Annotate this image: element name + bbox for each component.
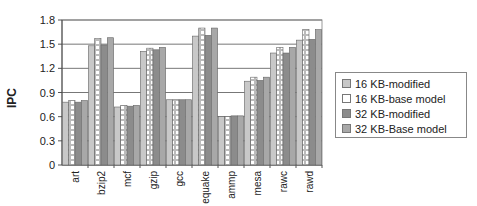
bar <box>277 47 283 165</box>
bar <box>140 51 146 165</box>
bar <box>237 116 243 165</box>
legend-item: 32 KB-modified <box>342 106 466 121</box>
bar <box>75 102 81 165</box>
x-tick-label: art <box>70 171 81 183</box>
bar <box>257 80 263 165</box>
x-tick-label: ammp <box>226 171 237 199</box>
x-tick-label: rawc <box>278 171 289 192</box>
chart-container: 00.30.60.91.21.51.8IPCartbzip2mcfgzipgcc… <box>0 0 477 206</box>
bar <box>133 105 139 165</box>
legend-item: 32 KB-Base model <box>342 121 466 136</box>
x-tick-label: bzip2 <box>96 171 107 195</box>
bar <box>62 102 68 165</box>
bar <box>101 45 107 165</box>
bar <box>296 40 302 165</box>
bar <box>315 30 321 165</box>
y-axis-label: IPC <box>5 88 19 108</box>
legend-item: 16 KB-modified <box>342 76 466 91</box>
bar <box>225 117 231 165</box>
bar <box>179 100 185 165</box>
y-tick-label: 0.3 <box>40 135 55 147</box>
y-tick-label: 1.5 <box>40 38 55 50</box>
y-tick-label: 0.6 <box>40 111 55 123</box>
bar <box>231 116 237 165</box>
bar <box>88 46 94 165</box>
bar <box>309 39 315 165</box>
bar <box>107 38 113 165</box>
bar <box>263 77 269 165</box>
bar <box>244 81 250 165</box>
bar <box>283 53 289 165</box>
y-tick-label: 0 <box>49 159 55 171</box>
y-tick-label: 1.2 <box>40 62 55 74</box>
legend-swatch-icon <box>342 124 351 133</box>
x-tick-label: mesa <box>252 171 263 196</box>
bar <box>270 53 276 165</box>
y-tick-label: 1.8 <box>40 14 55 26</box>
legend: 16 KB-modified 16 KB-base model 32 KB-mo… <box>335 72 467 138</box>
bar <box>205 35 211 165</box>
x-tick-label: gzip <box>148 171 159 190</box>
bar <box>166 100 172 165</box>
bar <box>289 47 295 165</box>
legend-item: 16 KB-base model <box>342 91 466 106</box>
bar <box>173 100 179 165</box>
bar <box>114 107 120 165</box>
bar <box>153 50 159 165</box>
bar <box>211 28 217 165</box>
bar <box>303 30 309 165</box>
y-tick-label: 0.9 <box>40 87 55 99</box>
bar <box>218 117 224 165</box>
legend-swatch-icon <box>342 79 351 88</box>
bar <box>95 39 101 165</box>
bar <box>159 47 165 165</box>
legend-swatch-icon <box>342 109 351 118</box>
bar <box>69 101 75 165</box>
legend-swatch-icon <box>342 94 351 103</box>
bar <box>81 101 87 165</box>
bar <box>185 100 191 165</box>
bar <box>127 106 133 165</box>
x-tick-label: gcc <box>174 171 185 187</box>
x-tick-label: rawd <box>304 171 315 193</box>
bar <box>121 105 127 165</box>
bar <box>199 28 205 165</box>
bar <box>251 77 257 165</box>
x-tick-label: mcf <box>122 171 133 187</box>
bar <box>147 48 153 165</box>
x-tick-label: equake <box>200 171 211 204</box>
bar <box>192 36 198 165</box>
